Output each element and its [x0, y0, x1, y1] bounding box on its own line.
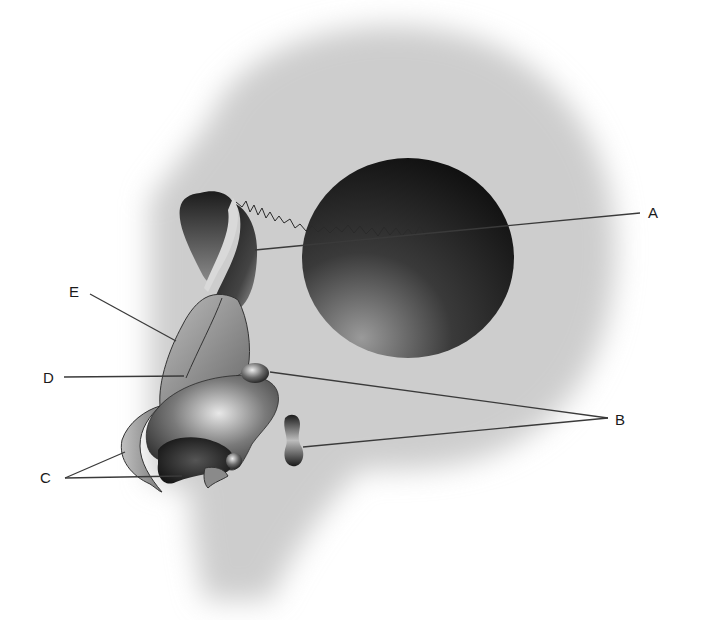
- label-b: B: [615, 412, 625, 427]
- sesamoid-node-lower: [226, 453, 242, 469]
- label-d: D: [43, 370, 54, 385]
- label-c: C: [40, 470, 51, 485]
- label-a: A: [648, 205, 658, 220]
- label-e: E: [69, 284, 79, 299]
- sesamoid-node-upper: [241, 363, 269, 383]
- diagram-canvas: [0, 0, 706, 620]
- leader-c-upper: [65, 452, 125, 478]
- anatomy-figure: A B C D E: [0, 0, 706, 620]
- orbit: [302, 158, 514, 358]
